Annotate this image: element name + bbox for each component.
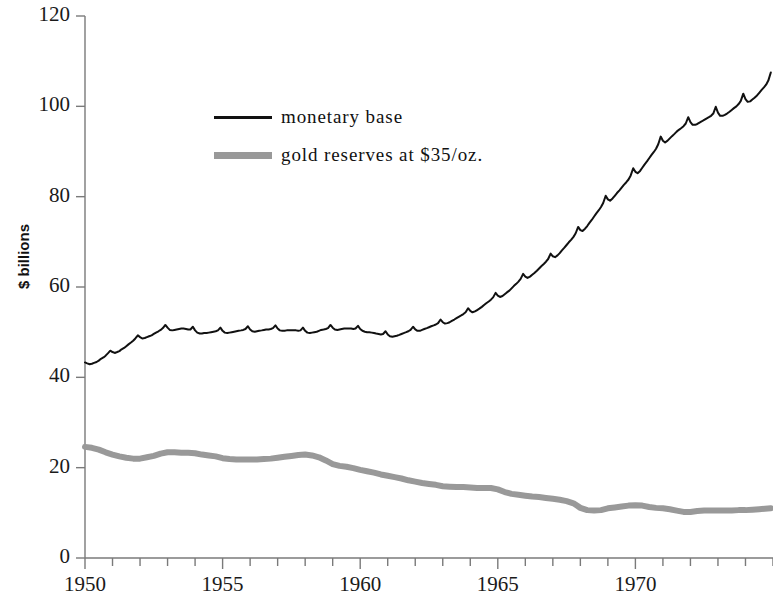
legend-label-monetary-base: monetary base: [281, 106, 403, 128]
y-tick-label: 60: [4, 273, 70, 298]
legend-entry-gold-reserves: gold reserves at $35/oz.: [214, 144, 483, 166]
legend-entry-monetary-base: monetary base: [214, 106, 403, 128]
legend-swatch-gold-reserves: [214, 152, 272, 159]
chart-plot-area: [0, 0, 773, 605]
y-tick-label: 0: [4, 544, 70, 569]
y-tick-label: 120: [4, 2, 70, 27]
y-tick-label: 40: [4, 363, 70, 388]
legend-label-gold-reserves: gold reserves at $35/oz.: [281, 144, 483, 166]
x-tick-label: 1960: [315, 572, 405, 597]
y-tick-label: 80: [4, 183, 70, 208]
x-tick-label: 1955: [178, 572, 268, 597]
x-tick-label: 1965: [453, 572, 543, 597]
legend-swatch-monetary-base: [214, 116, 272, 119]
x-tick-label: 1950: [40, 572, 130, 597]
chart-figure: $ billions 020406080100120 1950195519601…: [0, 0, 773, 605]
y-tick-label: 100: [4, 92, 70, 117]
x-tick-label: 1970: [590, 572, 680, 597]
chart-background: [0, 0, 773, 605]
y-tick-label: 20: [4, 454, 70, 479]
